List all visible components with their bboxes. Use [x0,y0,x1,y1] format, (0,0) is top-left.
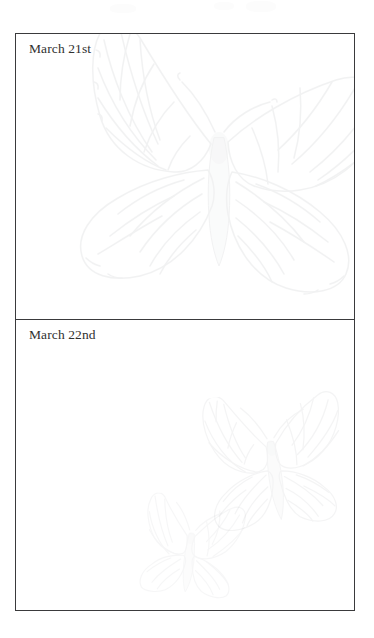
panel-label-march-22nd: March 22nd [29,327,96,343]
scan-artifact [214,2,234,10]
scan-artifact [246,1,276,12]
panel-label-march-21st: March 21st [29,41,91,57]
butterfly-large-watermark [56,34,354,320]
butterfly-medium-watermark [189,380,354,540]
date-panel-march-22nd[interactable]: March 22nd [16,320,354,610]
scanned-page-surface: March 21st [0,0,374,638]
date-table: March 21st [15,33,355,611]
scan-artifact [110,4,136,13]
date-panel-march-21st[interactable]: March 21st [16,34,354,320]
butterfly-small-watermark [131,491,249,602]
